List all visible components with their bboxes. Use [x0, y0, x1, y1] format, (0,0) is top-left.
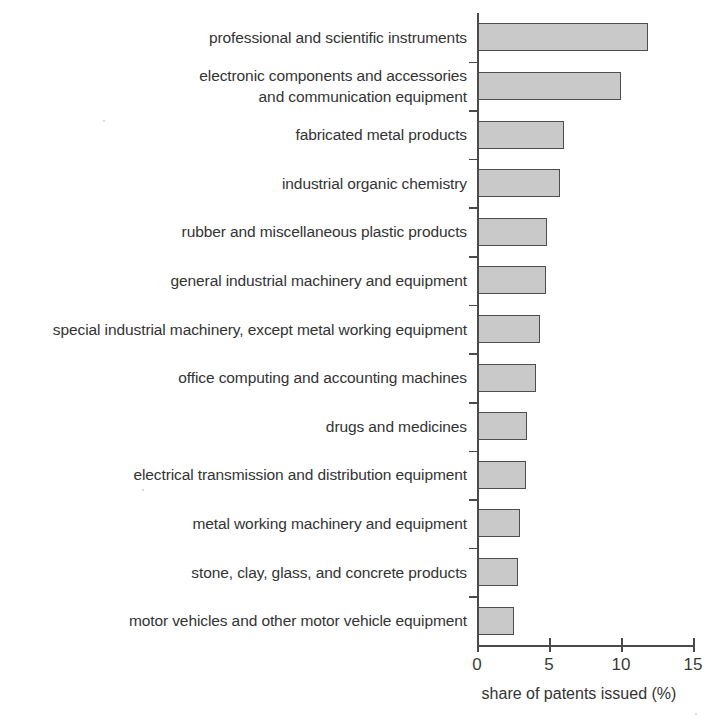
y-axis-tick [469, 451, 477, 453]
y-axis-tick [469, 305, 477, 307]
category-label: fabricated metal products [0, 124, 472, 145]
y-axis-tick [469, 499, 477, 501]
x-axis-tick-label: 15 [684, 655, 703, 675]
y-axis-tick [469, 110, 477, 112]
y-axis-tick [469, 207, 477, 209]
x-axis-tick-label: 5 [544, 655, 553, 675]
y-axis-tick [469, 353, 477, 355]
y-axis-tick [469, 159, 477, 161]
bar-chart: professional and scientific instrumentse… [0, 0, 707, 728]
category-label: professional and scientific instruments [0, 27, 472, 48]
category-label: metal working machinery and equipment [0, 513, 472, 534]
bar [478, 169, 560, 197]
category-label: rubber and miscellaneous plastic product… [0, 221, 472, 242]
bar [478, 607, 514, 635]
bar [478, 23, 648, 51]
y-axis-tick [469, 256, 477, 258]
y-axis-tick [469, 596, 477, 598]
category-label: drugs and medicines [0, 416, 472, 437]
bar [478, 509, 520, 537]
x-axis-line [477, 645, 693, 647]
category-label: electronic components and accessories an… [0, 65, 472, 107]
category-label-column: professional and scientific instrumentse… [0, 13, 472, 645]
category-label: motor vehicles and other motor vehicle e… [0, 610, 472, 631]
bar [478, 72, 621, 100]
category-label: industrial organic chemistry [0, 173, 472, 194]
bar [478, 461, 526, 489]
y-axis-tick [469, 62, 477, 64]
scan-speck [142, 489, 144, 491]
category-label: electrical transmission and distribution… [0, 464, 472, 485]
category-label: general industrial machinery and equipme… [0, 270, 472, 291]
x-axis-title: share of patents issued (%) [471, 685, 687, 703]
bar [478, 266, 546, 294]
bar [478, 364, 536, 392]
category-label: office computing and accounting machines [0, 367, 472, 388]
category-label: special industrial machinery, except met… [0, 319, 472, 340]
bar [478, 558, 518, 586]
scan-speck [103, 120, 105, 122]
x-axis-tick-label: 0 [472, 655, 481, 675]
bar [478, 121, 564, 149]
x-axis: 051015 [477, 645, 693, 646]
x-axis-tick [693, 638, 695, 652]
bar [478, 412, 527, 440]
scan-speck [695, 713, 697, 715]
bar [478, 218, 547, 246]
plot-area [477, 13, 693, 645]
x-axis-tick [621, 638, 623, 652]
y-axis-tick [469, 402, 477, 404]
y-axis-tick [469, 548, 477, 550]
x-axis-tick-label: 10 [612, 655, 631, 675]
x-axis-tick [549, 638, 551, 652]
x-axis-tick [477, 638, 479, 652]
bar [478, 315, 540, 343]
category-label: stone, clay, glass, and concrete product… [0, 562, 472, 583]
